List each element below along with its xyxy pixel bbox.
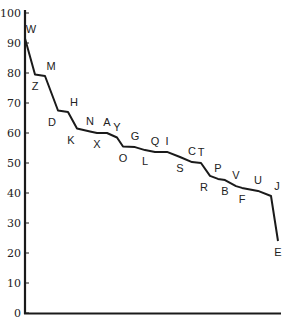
point-label-v: V <box>232 169 240 181</box>
y-tick-label: 60 <box>7 127 21 140</box>
point-label-a: A <box>103 116 111 128</box>
point-label-y: Y <box>113 121 121 133</box>
point-label-i: I <box>165 135 168 147</box>
point-label-p: P <box>214 162 221 174</box>
point-label-u: U <box>254 174 262 186</box>
y-tick-label: 80 <box>7 67 21 80</box>
point-label-d: D <box>48 116 56 128</box>
y-tick-label: 50 <box>7 157 21 170</box>
point-label-s: S <box>176 162 183 174</box>
point-label-q: Q <box>151 135 160 147</box>
y-tick-label: 100 <box>0 7 21 20</box>
y-tick-label: 20 <box>7 247 21 260</box>
y-tick-label: 10 <box>7 277 21 290</box>
point-label-z: Z <box>32 80 39 92</box>
point-label-b: B <box>221 185 228 197</box>
point-label-h: H <box>70 96 78 108</box>
point-label-w: W <box>26 23 37 35</box>
y-tick-label: 90 <box>7 37 21 50</box>
point-label-m: M <box>46 60 55 72</box>
y-tick-label: 0 <box>14 307 21 320</box>
point-label-r: R <box>200 181 208 193</box>
point-labels: WZMDHKNXAYOGLQISCTRPBVFUJE <box>26 23 282 259</box>
point-label-n: N <box>86 115 94 127</box>
point-label-x: X <box>93 138 101 150</box>
point-label-o: O <box>119 152 128 164</box>
point-label-c: C <box>188 145 196 157</box>
y-tick-label: 30 <box>7 217 21 230</box>
point-label-k: K <box>67 134 75 146</box>
point-label-t: T <box>198 146 205 158</box>
point-label-e: E <box>274 246 281 258</box>
y-tick-label: 70 <box>7 97 21 110</box>
line-chart: 0102030405060708090100 WZMDHKNXAYOGLQISC… <box>0 0 289 325</box>
point-label-l: L <box>142 155 148 167</box>
point-label-f: F <box>239 193 246 205</box>
point-label-g: G <box>131 130 140 142</box>
point-label-j: J <box>274 180 280 192</box>
y-tick-label: 40 <box>7 187 21 200</box>
